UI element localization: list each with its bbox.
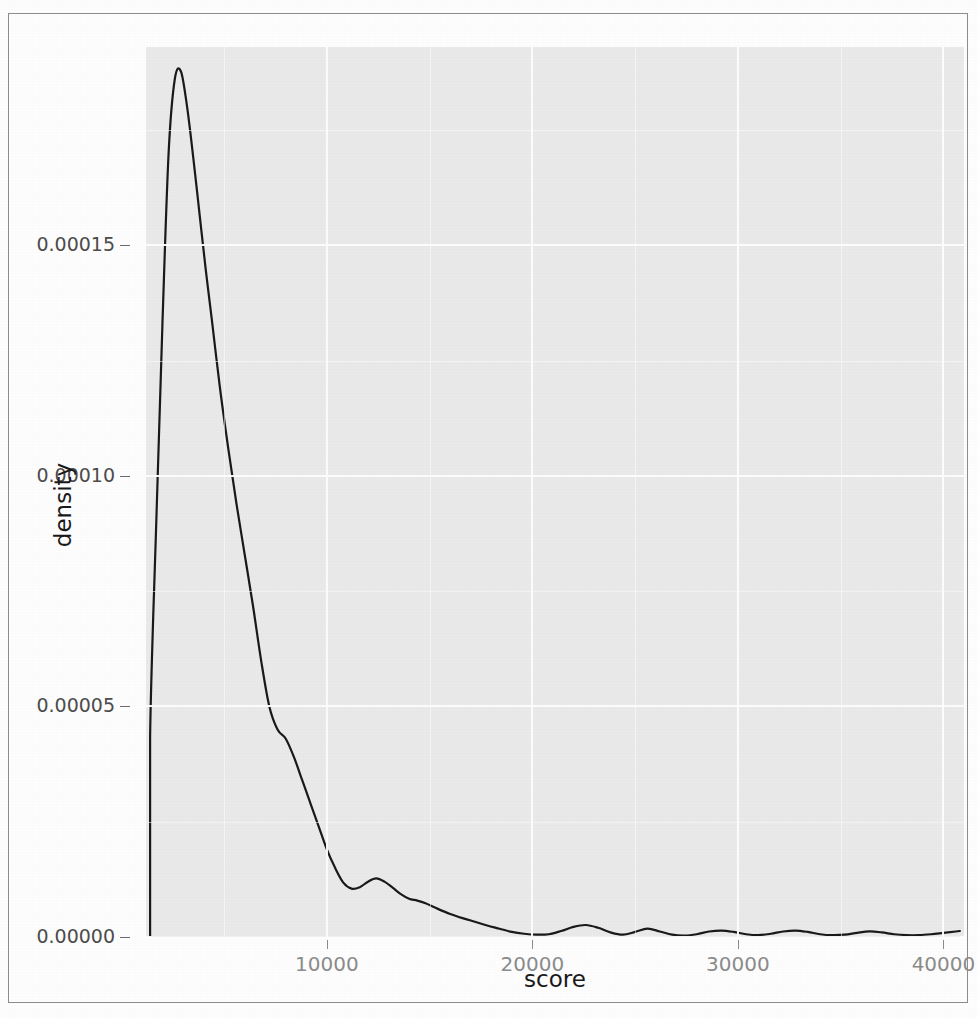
x-tick-mark-3 — [943, 940, 944, 949]
y-tick-label-1: 0.00005 — [36, 696, 115, 715]
figure-canvas: 0.000000.000050.000100.00015 10000200003… — [0, 0, 978, 1018]
plot-panel — [146, 47, 964, 937]
gridline-vertical-minor-0 — [224, 47, 225, 937]
x-tick-mark-0 — [327, 940, 328, 949]
gridline-vertical-minor-1 — [430, 47, 431, 937]
gridline-vertical-major-2 — [737, 47, 739, 937]
x-tick-mark-1 — [532, 940, 533, 949]
gridline-vertical-minor-3 — [841, 47, 842, 937]
y-tick-label-3: 0.00015 — [36, 235, 115, 254]
y-tick-mark-0 — [120, 937, 130, 938]
y-tick-mark-3 — [120, 245, 130, 246]
y-tick-mark-1 — [120, 706, 130, 707]
y-axis-title: density — [50, 445, 76, 565]
gridline-vertical-major-1 — [531, 47, 533, 937]
y-tick-label-0: 0.00000 — [36, 927, 115, 946]
density-line — [150, 68, 960, 937]
gridline-vertical-minor-2 — [635, 47, 636, 937]
x-axis-title: score — [146, 966, 964, 992]
y-tick-mark-2 — [120, 476, 130, 477]
x-tick-mark-2 — [738, 940, 739, 949]
figure-frame: 0.000000.000050.000100.00015 10000200003… — [8, 13, 968, 1003]
gridline-vertical-major-3 — [942, 47, 944, 937]
gridline-vertical-major-0 — [326, 47, 328, 937]
